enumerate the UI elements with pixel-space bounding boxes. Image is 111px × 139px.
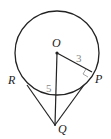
point-q — [54, 124, 56, 126]
segment-op — [57, 53, 92, 72]
geometry-diagram: O P Q R 3 5 — [0, 0, 111, 139]
label-p: P — [94, 72, 103, 86]
point-o — [55, 51, 58, 54]
segment-qp — [55, 85, 84, 125]
segment-oq — [55, 53, 57, 125]
label-oq-length: 5 — [46, 82, 52, 94]
label-q: Q — [58, 122, 67, 136]
right-angle-marker — [83, 69, 88, 77]
label-r: R — [7, 73, 16, 87]
label-op-length: 3 — [76, 52, 82, 64]
label-o: O — [52, 36, 61, 50]
